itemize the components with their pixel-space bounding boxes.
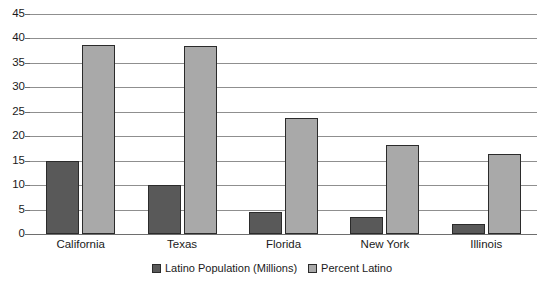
bar-california-series-0 (46, 161, 79, 234)
y-axis-tick-mark (25, 210, 30, 211)
bar-texas-series-0 (148, 185, 181, 234)
y-axis-tick-mark (25, 38, 30, 39)
y-axis-tick-mark (25, 161, 30, 162)
bar-florida-series-0 (249, 212, 282, 234)
chart-legend: Latino Population (Millions)Percent Lati… (0, 262, 544, 274)
plot-area (30, 14, 537, 234)
y-axis-tick-mark (25, 87, 30, 88)
bar-florida-series-1 (285, 118, 318, 234)
bar-new-york-series-0 (350, 217, 383, 234)
y-axis-tick-mark (25, 63, 30, 64)
legend-item-1[interactable]: Percent Latino (308, 262, 392, 274)
y-axis-tick-mark (25, 234, 30, 235)
bar-illinois-series-1 (488, 154, 521, 234)
y-axis-tick-mark (25, 136, 30, 137)
y-axis-tick-label: 25 (0, 106, 25, 118)
legend-label: Latino Population (Millions) (165, 262, 297, 274)
y-axis-tick-mark (25, 14, 30, 15)
y-axis-tick-label: 15 (0, 155, 25, 167)
gridline (30, 38, 537, 39)
legend-swatch-icon (308, 264, 317, 273)
gridline (30, 14, 537, 15)
bar-chart: 051015202530354045 CaliforniaTexasFlorid… (0, 0, 544, 287)
y-axis-tick-label: 20 (0, 130, 25, 142)
legend-label: Percent Latino (321, 262, 392, 274)
bar-texas-series-1 (184, 46, 217, 234)
bar-new-york-series-1 (386, 145, 419, 234)
y-axis-tick-label: 45 (0, 8, 25, 20)
y-axis-tick-label: 5 (0, 204, 25, 216)
bar-illinois-series-0 (452, 224, 485, 234)
x-axis-baseline (30, 234, 537, 235)
y-axis-tick-label: 10 (0, 179, 25, 191)
y-axis-tick-mark (25, 185, 30, 186)
legend-item-0[interactable]: Latino Population (Millions) (152, 262, 297, 274)
y-axis-tick-label: 35 (0, 57, 25, 69)
y-axis-tick-mark (25, 112, 30, 113)
legend-swatch-icon (152, 264, 161, 273)
y-axis-tick-label: 30 (0, 81, 25, 93)
chart-title (0, 0, 544, 1)
bar-california-series-1 (82, 45, 115, 234)
y-axis-tick-label: 40 (0, 32, 25, 44)
category-label-illinois: Illinois (426, 238, 544, 250)
